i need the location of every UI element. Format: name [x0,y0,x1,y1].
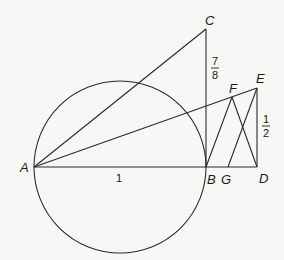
segment-bf [206,97,232,167]
point-label-d: D [259,171,268,186]
point-label-f: F [229,81,238,96]
segment-ac [34,29,206,167]
point-label-g: G [221,172,231,187]
length-label-de-numerator: 1 [263,113,269,125]
segment-ae [34,88,257,167]
length-label-de-denominator: 2 [263,127,269,139]
geometry-diagram: A B C D E F G 1 7 8 1 2 [0,0,284,260]
length-label-bc-denominator: 8 [212,69,218,81]
point-label-e: E [256,71,265,86]
point-label-a: A [19,160,29,175]
length-label-bc-numerator: 7 [212,55,218,67]
point-label-c: C [205,13,215,28]
length-label-ab: 1 [116,172,122,184]
point-label-b: B [207,172,216,187]
segment-fd [232,97,257,167]
